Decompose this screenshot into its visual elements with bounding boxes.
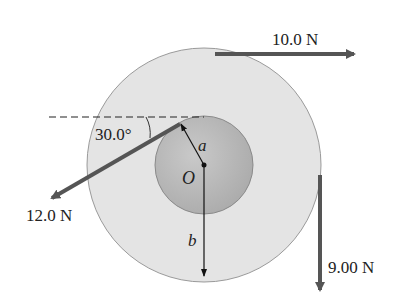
label-radius-a: a [198, 136, 207, 155]
label-angle: 30.0° [95, 125, 132, 144]
label-force-right: 9.00 N [328, 258, 374, 277]
label-force-left: 12.0 N [26, 206, 72, 225]
label-radius-b: b [188, 231, 197, 250]
label-force-top: 10.0 N [272, 30, 318, 49]
torque-diagram: 10.0 N 30.0° a O 12.0 N b 9.00 N [0, 0, 418, 308]
label-center-O: O [182, 168, 195, 188]
